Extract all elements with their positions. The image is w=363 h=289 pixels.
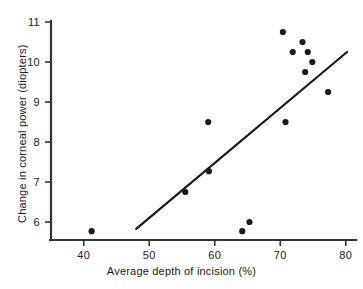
data-point bbox=[290, 49, 296, 55]
data-point bbox=[246, 219, 252, 225]
data-point bbox=[206, 168, 212, 174]
x-tick-label: 60 bbox=[208, 249, 221, 261]
x-tick-label: 70 bbox=[274, 249, 287, 261]
y-axis-title: Change in corneal power (diopters) bbox=[16, 44, 28, 223]
data-point bbox=[302, 69, 308, 75]
data-point bbox=[299, 39, 305, 45]
data-points bbox=[89, 29, 332, 234]
y-tick-label: 11 bbox=[10, 16, 40, 28]
data-point bbox=[305, 49, 311, 55]
data-point bbox=[309, 59, 315, 65]
data-point bbox=[182, 189, 188, 195]
x-tick-label: 40 bbox=[77, 249, 90, 261]
regression-line bbox=[136, 52, 347, 229]
regression-line-segment bbox=[136, 52, 347, 229]
data-point bbox=[205, 119, 211, 125]
x-tick-label: 80 bbox=[339, 249, 352, 261]
data-point bbox=[89, 228, 95, 234]
scatter-plot-figure: 67891011 4050607080 Average depth of inc… bbox=[0, 0, 363, 289]
data-point bbox=[280, 29, 286, 35]
data-point bbox=[282, 119, 288, 125]
data-point bbox=[325, 89, 331, 95]
plot-canvas bbox=[0, 0, 363, 289]
data-point bbox=[239, 228, 245, 234]
x-tick-label: 50 bbox=[143, 249, 156, 261]
x-axis-title: Average depth of incision (%) bbox=[0, 265, 363, 277]
